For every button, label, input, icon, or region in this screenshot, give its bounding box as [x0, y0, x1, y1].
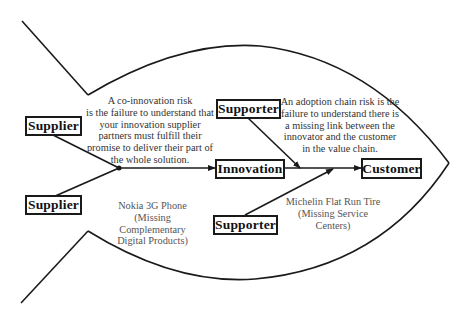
michelin-example: Michelin Flat Run Tire (Missing Service …	[283, 196, 383, 231]
bone-supplier-bottom	[53, 168, 119, 197]
node-label: Supporter	[218, 101, 279, 117]
node-label: Supporter	[215, 217, 276, 233]
adoption-chain-risk-note: An adoption chain risk is the failure to…	[280, 96, 400, 155]
node-label: Customer	[362, 161, 421, 177]
nokia-example: Nokia 3G Phone (Missing Complementary Di…	[110, 200, 195, 247]
fish-tail-top	[22, 21, 88, 95]
node-label: Innovation	[217, 161, 282, 177]
node-supporter-bottom: Supporter	[213, 215, 278, 235]
node-customer: Customer	[361, 158, 422, 179]
fish-tail-bottom	[21, 231, 88, 303]
node-supplier-top: Supplier	[25, 116, 82, 136]
node-supplier-bottom: Supplier	[25, 195, 82, 215]
node-supporter-top: Supporter	[216, 99, 281, 119]
node-innovation: Innovation	[215, 159, 285, 179]
co-innovation-risk-note: A co-innovation risk is the failure to u…	[85, 95, 215, 166]
node-label: Supplier	[28, 197, 79, 213]
fishbone-diagram: Supplier Supplier Supporter Supporter In…	[0, 0, 465, 318]
node-label: Supplier	[28, 118, 79, 134]
